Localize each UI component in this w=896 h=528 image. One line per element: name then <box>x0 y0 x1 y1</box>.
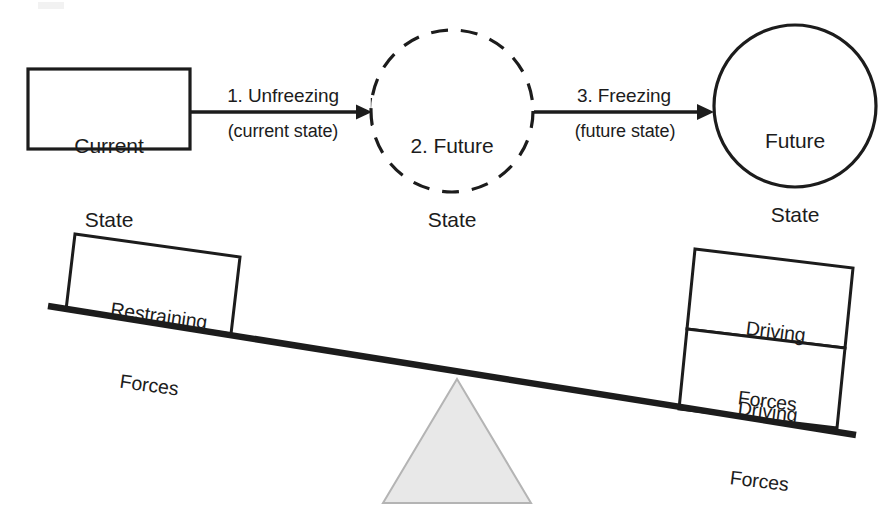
arrow-unfreezing-top-label: 1. Unfreezing <box>198 85 368 107</box>
restraining-forces-line2: Forces <box>68 363 230 408</box>
future-state-dashed-label: 2. Future State <box>372 84 532 282</box>
arrow-freezing-bottom-label: (future state) <box>540 121 710 142</box>
current-state-line1: Current <box>28 134 190 159</box>
arrow-unfreezing-bottom-label: (current state) <box>194 121 372 142</box>
diagram-canvas: Current State 1. Unfreezing (current sta… <box>0 0 896 528</box>
fulcrum-triangle <box>383 379 531 503</box>
future-state-solid-label: Future State <box>715 79 875 277</box>
driving-forces-lower-line2: Forces <box>681 460 838 502</box>
restraining-forces-line1: Restraining <box>78 293 240 338</box>
current-state-line2: State <box>28 208 190 233</box>
arrow-freezing-top-label: 3. Freezing <box>546 85 702 107</box>
future-state-dashed-line1: 2. Future <box>372 134 532 159</box>
restraining-forces-label: Restraining Forces <box>62 247 246 455</box>
driving-forces-lower-label: Driving Forces <box>675 344 852 528</box>
future-state-dashed-line2: State <box>372 208 532 233</box>
scan-artifact <box>38 2 64 9</box>
driving-forces-lower-line1: Driving <box>689 391 846 433</box>
future-state-solid-line2: State <box>715 203 875 228</box>
future-state-solid-line1: Future <box>715 129 875 154</box>
